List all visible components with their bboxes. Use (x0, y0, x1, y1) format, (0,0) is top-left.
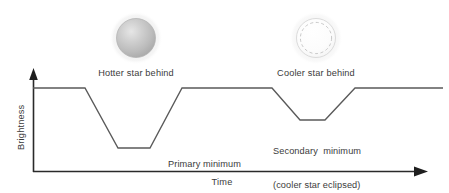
primary-minimum-line-1: Primary minimum (168, 159, 254, 170)
secondary-minimum-line-1: Secondary minimum (273, 146, 361, 157)
primary-minimum-annotation: Primary minimum (hotter star eclipsed) (168, 137, 254, 193)
cooler-star-caption: Cooler star behind (260, 68, 372, 79)
hotter-star-caption: Hotter star behind (80, 68, 192, 79)
eclipsing-binary-light-curve-figure: Brightness Time Hotter star behind Coole… (0, 0, 449, 193)
secondary-minimum-line-2: (cooler star eclipsed) (273, 180, 361, 191)
y-axis (29, 68, 38, 172)
y-axis-label: Brightness (16, 105, 27, 150)
secondary-minimum-annotation: Secondary minimum (cooler star eclipsed) (273, 124, 361, 193)
